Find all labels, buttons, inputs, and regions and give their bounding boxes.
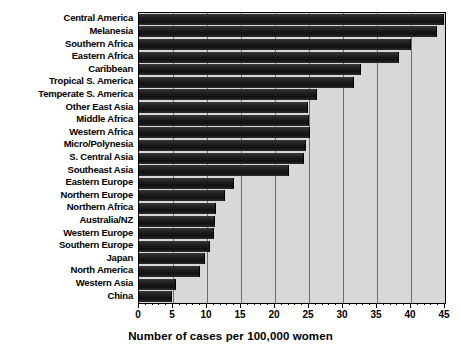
- x-tick-minor: [247, 303, 248, 305]
- bar: [139, 64, 361, 75]
- x-tick-label: 10: [200, 309, 211, 320]
- bar-row: [139, 178, 234, 189]
- x-tick-minor: [417, 303, 418, 305]
- x-tick-label: 35: [370, 309, 381, 320]
- x-tick-minor: [315, 303, 316, 305]
- x-tick-minor: [254, 303, 255, 305]
- bar-row: [139, 253, 205, 264]
- x-tick-major: [376, 303, 377, 308]
- x-tick-label: 15: [234, 309, 245, 320]
- x-tick-minor: [403, 303, 404, 305]
- bar: [139, 190, 225, 201]
- x-tick-label: 30: [336, 309, 347, 320]
- x-tick-minor: [383, 303, 384, 305]
- bar-row: [139, 77, 354, 88]
- bar-row: [139, 228, 214, 239]
- x-tick-minor: [369, 303, 370, 305]
- y-axis-label: Northern Africa: [0, 201, 133, 212]
- bar: [139, 178, 234, 189]
- bar: [139, 39, 411, 50]
- y-axis-label: S. Central Asia: [0, 151, 133, 162]
- bar-row: [139, 291, 172, 302]
- bar-row: [139, 216, 215, 227]
- bar-row: [139, 165, 289, 176]
- x-tick-minor: [437, 303, 438, 305]
- x-tick-label: 40: [404, 309, 415, 320]
- x-tick-major: [172, 303, 173, 308]
- bar-row: [139, 39, 411, 50]
- bar-row: [139, 203, 216, 214]
- bar-row: [139, 26, 437, 37]
- y-axis-label: Central America: [0, 12, 133, 23]
- bar: [139, 77, 354, 88]
- bar: [139, 266, 200, 277]
- bar-row: [139, 153, 304, 164]
- x-tick-major: [206, 303, 207, 308]
- x-tick-minor: [267, 303, 268, 305]
- bar-row: [139, 14, 444, 25]
- bar-row: [139, 140, 306, 151]
- y-axis-label: Australia/NZ: [0, 214, 133, 225]
- y-axis-label: Southern Europe: [0, 239, 133, 250]
- bar-row: [139, 89, 317, 100]
- y-axis-label: Western Asia: [0, 277, 133, 288]
- y-axis-label: China: [0, 290, 133, 301]
- x-tick-minor: [294, 303, 295, 305]
- y-axis-label: Southeast Asia: [0, 164, 133, 175]
- x-tick-minor: [430, 303, 431, 305]
- x-tick-minor: [335, 303, 336, 305]
- bar: [139, 291, 172, 302]
- x-tick-minor: [390, 303, 391, 305]
- x-tick-minor: [328, 303, 329, 305]
- bar-chart: Central AmericaMelanesiaSouthern AfricaE…: [0, 0, 461, 352]
- bar: [139, 127, 310, 138]
- x-tick-minor: [396, 303, 397, 305]
- bar: [139, 52, 399, 63]
- y-axis-label: Japan: [0, 252, 133, 263]
- bar: [139, 153, 304, 164]
- plot-area: [138, 12, 446, 304]
- bar-row: [139, 52, 399, 63]
- x-tick-minor: [362, 303, 363, 305]
- x-tick-minor: [165, 303, 166, 305]
- x-tick-minor: [213, 303, 214, 305]
- x-tick-minor: [192, 303, 193, 305]
- y-axis-label: Caribbean: [0, 63, 133, 74]
- x-tick-major: [274, 303, 275, 308]
- bar-row: [139, 127, 310, 138]
- x-tick-label: 20: [268, 309, 279, 320]
- x-tick-major: [138, 303, 139, 308]
- x-tick-minor: [356, 303, 357, 305]
- y-axis-label: Micro/Polynesia: [0, 138, 133, 149]
- x-tick-major: [410, 303, 411, 308]
- bar: [139, 279, 176, 290]
- bar: [139, 241, 210, 252]
- x-tick-minor: [233, 303, 234, 305]
- bar: [139, 115, 309, 126]
- x-axis: 051015202530354045: [138, 303, 445, 327]
- x-tick-minor: [186, 303, 187, 305]
- x-tick-label: 5: [169, 309, 175, 320]
- y-axis-label: Southern Africa: [0, 38, 133, 49]
- bar: [139, 102, 308, 113]
- y-axis-label: Melanesia: [0, 25, 133, 36]
- y-axis-category-labels: Central AmericaMelanesiaSouthern AfricaE…: [0, 12, 133, 302]
- x-tick-minor: [220, 303, 221, 305]
- y-axis-label: Western Europe: [0, 227, 133, 238]
- x-axis-title: Number of cases per 100,000 women: [0, 330, 461, 342]
- x-tick-minor: [158, 303, 159, 305]
- bar-row: [139, 190, 225, 201]
- x-tick-minor: [226, 303, 227, 305]
- y-axis-label: Northern Europe: [0, 189, 133, 200]
- bar: [139, 165, 289, 176]
- y-axis-label: Middle Africa: [0, 113, 133, 124]
- x-tick-label: 45: [438, 309, 449, 320]
- bar-row: [139, 266, 200, 277]
- y-axis-label: Eastern Europe: [0, 176, 133, 187]
- x-tick-major: [308, 303, 309, 308]
- bar-row: [139, 241, 210, 252]
- bar: [139, 14, 444, 25]
- x-tick-minor: [179, 303, 180, 305]
- bar: [139, 216, 215, 227]
- bar: [139, 26, 437, 37]
